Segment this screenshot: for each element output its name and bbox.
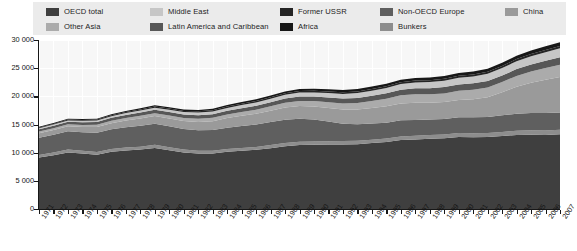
y-axis-tick bbox=[34, 153, 39, 154]
gridline-vertical bbox=[560, 40, 561, 209]
y-axis-label-text: 0 bbox=[0, 205, 34, 213]
y-axis-label-text: 10 000 bbox=[0, 149, 34, 157]
legend-item[interactable]: Latin America and Caribbean bbox=[150, 19, 269, 34]
y-axis-label-text: 25 000 bbox=[0, 64, 34, 72]
legend-item-label: Middle East bbox=[168, 7, 209, 16]
legend-item-label: Other Asia bbox=[64, 22, 100, 31]
y-axis-label-text: 30 000 bbox=[0, 36, 34, 44]
legend-item[interactable]: Middle East bbox=[150, 4, 209, 19]
legend-item[interactable]: Non-OECD Europe bbox=[380, 4, 465, 19]
stacked-area-series bbox=[39, 40, 560, 209]
y-axis-tick bbox=[34, 68, 39, 69]
legend-swatch-icon bbox=[150, 23, 163, 31]
legend-swatch-icon bbox=[380, 23, 393, 31]
legend-item[interactable]: Bunkers bbox=[380, 19, 427, 34]
y-axis-label-text: 5 000 bbox=[0, 177, 34, 185]
y-axis-tick bbox=[34, 181, 39, 182]
legend-swatch-icon bbox=[280, 23, 293, 31]
y-axis-label: 30 000 bbox=[0, 36, 34, 46]
y-axis-label: 25 000 bbox=[0, 64, 34, 74]
legend-item[interactable]: OECD total bbox=[46, 4, 103, 19]
legend-row-2: Other AsiaLatin America and CaribbeanAfr… bbox=[33, 19, 566, 34]
legend-swatch-icon bbox=[46, 23, 59, 31]
x-axis-label: 2007 bbox=[561, 203, 577, 221]
legend-item-label: OECD total bbox=[64, 7, 103, 16]
legend-swatch-icon bbox=[505, 8, 518, 16]
plot-area bbox=[39, 40, 560, 209]
legend-item-label: Latin America and Caribbean bbox=[168, 22, 269, 31]
y-axis-tick bbox=[34, 40, 39, 41]
legend-row-1: OECD totalMiddle EastFormer USSRNon-OECD… bbox=[33, 4, 566, 19]
y-axis-label: 15 000 bbox=[0, 121, 34, 131]
legend-swatch-icon bbox=[280, 8, 293, 16]
y-axis-label-text: 20 000 bbox=[0, 92, 34, 100]
legend-swatch-icon bbox=[46, 8, 59, 16]
y-axis-label-text: 15 000 bbox=[0, 121, 34, 129]
legend-item-label: Former USSR bbox=[298, 7, 347, 16]
legend-item[interactable]: China bbox=[505, 4, 543, 19]
y-axis-label: 20 000 bbox=[0, 92, 34, 102]
y-axis-tick bbox=[34, 125, 39, 126]
legend-item[interactable]: Other Asia bbox=[46, 19, 100, 34]
legend-swatch-icon bbox=[380, 8, 393, 16]
legend-item[interactable]: Africa bbox=[280, 19, 318, 34]
y-axis-label: 5 000 bbox=[0, 177, 34, 187]
legend-item-label: Africa bbox=[298, 22, 318, 31]
legend-item[interactable]: Former USSR bbox=[280, 4, 347, 19]
legend-item-label: Bunkers bbox=[398, 22, 427, 31]
y-axis-label: 0 bbox=[0, 205, 34, 215]
legend-item-label: China bbox=[523, 7, 543, 16]
legend-item-label: Non-OECD Europe bbox=[398, 7, 465, 16]
y-axis-label: 10 000 bbox=[0, 149, 34, 159]
legend-swatch-icon bbox=[150, 8, 163, 16]
y-axis-tick bbox=[34, 96, 39, 97]
chart-legend: OECD totalMiddle EastFormer USSRNon-OECD… bbox=[33, 2, 566, 35]
